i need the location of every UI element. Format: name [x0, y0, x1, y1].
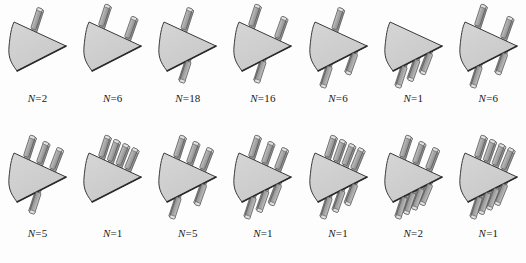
arrowhead-shape [75, 0, 150, 90]
figure-cell: N=2 [376, 131, 451, 262]
cell-label-value: 6 [117, 92, 123, 104]
cell-label: N=18 [150, 92, 225, 104]
figure-cell: N=2 [0, 0, 75, 131]
figure-cell: N=1 [376, 0, 451, 131]
shape-holder [301, 131, 376, 221]
shape-holder [451, 131, 526, 221]
cell-label-value: 2 [42, 92, 48, 104]
cell-label-symbol: N [479, 227, 487, 239]
cell-label-value: 5 [42, 227, 48, 239]
cell-label: N=6 [451, 92, 526, 104]
arrowhead-shape [225, 131, 300, 221]
arrowhead-shape [376, 131, 451, 221]
shape-holder [451, 0, 526, 90]
cell-label-value: 1 [267, 227, 273, 239]
cell-label: N=1 [225, 227, 300, 239]
cell-label-symbol: N [178, 227, 186, 239]
shape-holder [225, 0, 300, 90]
cell-label-symbol: N [479, 92, 487, 104]
cell-label-symbol: N [253, 227, 261, 239]
shape-holder [225, 131, 300, 221]
shape-holder [150, 0, 225, 90]
arrowhead-shape [150, 0, 225, 90]
cell-label: N=1 [75, 227, 150, 239]
shape-holder [376, 131, 451, 221]
cell-label: N=1 [301, 227, 376, 239]
cell-label-value: 18 [189, 92, 200, 104]
arrowhead-shape [0, 131, 75, 221]
figure-cell: N=1 [301, 131, 376, 262]
arrowhead-shape-figure: N=2N=6N=18N=16N=6N=1N=6 N=5N=1N=5N=1N=1N… [0, 0, 526, 263]
figure-cell: N=1 [225, 131, 300, 262]
arrowhead-shape [301, 0, 376, 90]
cell-label: N=1 [451, 227, 526, 239]
cell-label: N=6 [301, 92, 376, 104]
shape-holder [150, 131, 225, 221]
cell-label-symbol: N [403, 92, 411, 104]
cell-label-symbol: N [175, 92, 183, 104]
cell-label: N=6 [75, 92, 150, 104]
cell-label-value: 16 [264, 92, 275, 104]
figure-cell: N=5 [0, 131, 75, 262]
cell-label: N=1 [376, 92, 451, 104]
arrowhead-shape [451, 0, 526, 90]
arrowhead-shape [376, 0, 451, 90]
figure-cell: N=5 [150, 131, 225, 262]
figure-cell: N=6 [451, 0, 526, 131]
cell-label-value: 1 [493, 227, 499, 239]
figure-row-top: N=2N=6N=18N=16N=6N=1N=6 [0, 0, 526, 131]
cell-label-symbol: N [403, 227, 411, 239]
cell-label-value: 6 [342, 92, 348, 104]
shape-holder [0, 0, 75, 90]
cell-label-value: 1 [417, 92, 423, 104]
cell-label-value: 1 [342, 227, 348, 239]
cell-label: N=2 [0, 92, 75, 104]
shape-holder [75, 131, 150, 221]
figure-row-bottom: N=5N=1N=5N=1N=1N=2N=1 [0, 131, 526, 262]
cell-label: N=16 [225, 92, 300, 104]
arrowhead-shape [225, 0, 300, 90]
shape-holder [0, 131, 75, 221]
figure-cell: N=16 [225, 0, 300, 131]
cell-label-symbol: N [250, 92, 258, 104]
cell-label-value: 5 [192, 227, 198, 239]
figure-cell: N=1 [75, 131, 150, 262]
arrowhead-shape [301, 131, 376, 221]
figure-cell: N=6 [301, 0, 376, 131]
cell-label: N=5 [0, 227, 75, 239]
cell-label: N=2 [376, 227, 451, 239]
arrowhead-shape [75, 131, 150, 221]
cell-label-symbol: N [328, 92, 336, 104]
shape-holder [376, 0, 451, 90]
shape-holder [301, 0, 376, 90]
cell-label-value: 2 [417, 227, 423, 239]
shape-holder [75, 0, 150, 90]
figure-cell: N=6 [75, 0, 150, 131]
cell-label-symbol: N [328, 227, 336, 239]
cell-label: N=5 [150, 227, 225, 239]
cell-label-value: 1 [117, 227, 123, 239]
arrowhead-shape [0, 0, 75, 90]
figure-cell: N=18 [150, 0, 225, 131]
arrowhead-shape [150, 131, 225, 221]
cell-label-value: 6 [493, 92, 499, 104]
arrowhead-shape [451, 131, 526, 221]
figure-cell: N=1 [451, 131, 526, 262]
